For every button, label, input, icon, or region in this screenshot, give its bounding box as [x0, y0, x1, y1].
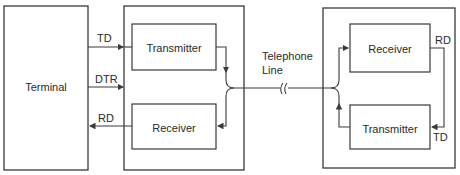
left-receiver-label: Receiver [152, 122, 196, 134]
right-receiver-label: Receiver [368, 43, 412, 55]
left-transmitter-block: Transmitter [132, 24, 216, 70]
right-loopback: RD TD [430, 34, 451, 143]
right-transmitter-label: Transmitter [362, 123, 418, 135]
rd-left-label: RD [98, 112, 114, 124]
loopback-wire [430, 48, 444, 127]
left-rx-input-wire [218, 88, 234, 126]
line-break-icon [281, 83, 283, 94]
td-left-label: TD [97, 32, 112, 44]
td-left-signal: TD [88, 32, 132, 47]
left-receiver-block: Receiver [132, 104, 216, 149]
terminal-label: Terminal [25, 81, 67, 93]
left-modem-box [124, 6, 244, 170]
telephone-line: Telephone Line [234, 50, 331, 94]
right-modem-box [323, 8, 455, 168]
td-right-label: TD [433, 131, 448, 143]
left-tx-output-wire [216, 47, 226, 72]
left-tx-curve [226, 72, 234, 88]
rd-left-signal: RD [90, 112, 132, 126]
right-transmitter-block: Transmitter [350, 105, 430, 149]
right-tx-output-wire [339, 104, 350, 127]
telephone-label-line1: Telephone [262, 50, 313, 62]
modem-loopback-diagram: Terminal Transmitter Receiver TD DTR RD … [0, 0, 460, 175]
dtr-label: DTR [95, 73, 118, 85]
left-transmitter-label: Transmitter [146, 42, 202, 54]
right-rx-input-wire [331, 48, 348, 88]
right-receiver-block: Receiver [350, 24, 430, 72]
dtr-signal: DTR [88, 73, 123, 87]
telephone-label-line2: Line [262, 64, 283, 76]
terminal-block: Terminal [4, 6, 88, 170]
rd-right-label: RD [435, 34, 451, 46]
